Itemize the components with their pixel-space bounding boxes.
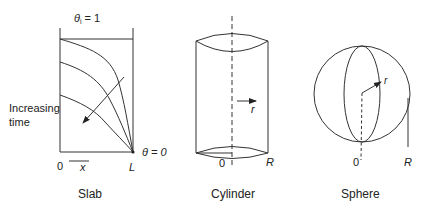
cylinder-figure <box>196 16 268 168</box>
slab-origin-label: 0 <box>57 160 63 172</box>
slab-corner-dot <box>131 150 134 153</box>
time-label: time <box>9 116 30 128</box>
profile-curve-2 <box>60 62 133 152</box>
geometry-diagram: θi = 1 Increasing time θ = 0 0 x L Slab … <box>0 0 427 208</box>
boundary-condition-label: θ = 0 <box>142 146 168 158</box>
sphere-r-arrow <box>362 82 381 93</box>
cylinder-caption: Cylinder <box>211 187 255 201</box>
sphere-origin-label: 0 <box>353 156 359 168</box>
slab-caption: Slab <box>78 187 102 201</box>
slab-figure <box>60 28 133 161</box>
sphere-figure <box>314 46 410 160</box>
sphere-radius-label: R <box>404 156 412 168</box>
slab-x-label: x <box>79 161 86 173</box>
sphere-axis <box>361 93 362 160</box>
cylinder-origin-label: 0 <box>219 157 225 169</box>
cylinder-r-label: r <box>251 103 256 115</box>
cylinder-radius-label: R <box>266 156 274 168</box>
initial-condition-label: θi = 1 <box>74 12 100 25</box>
profile-curve-3 <box>60 95 133 152</box>
profile-curve-1 <box>60 39 133 152</box>
sphere-r-label: r <box>384 75 388 86</box>
increasing-label: Increasing <box>9 102 60 114</box>
slab-length-label: L <box>129 161 135 173</box>
sphere-caption: Sphere <box>341 187 380 201</box>
